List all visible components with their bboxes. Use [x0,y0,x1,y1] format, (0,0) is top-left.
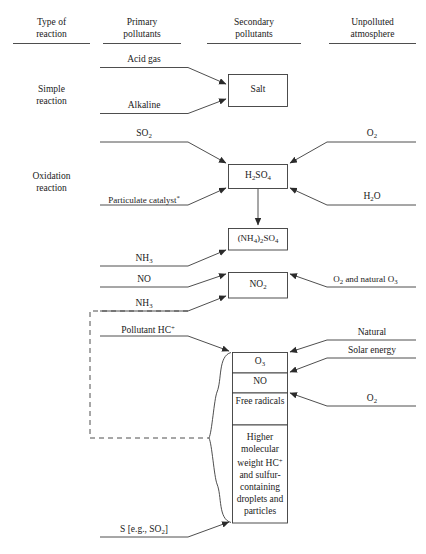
label-text: SO2 [136,128,152,138]
header-line1: Primary [103,17,181,29]
label-natural: Natural [328,327,416,339]
label-alkaline: Alkaline [100,100,188,112]
header-secondary-pollutants: Secondary pollutants [207,17,301,40]
label-o2-photochemical: O2 [328,393,416,407]
label-text: Acid gas [127,54,161,64]
label-text: Particulate catalyst* [108,195,180,205]
box-text: O3 [255,356,265,366]
box-text: H2SO4 [245,170,271,180]
header-line2: reaction [13,29,90,41]
label-sulfur-source: S [e.g., SO2] [100,524,188,538]
flow-so2 [100,142,226,163]
row-label-line2: reaction [13,96,90,108]
header-line2: atmosphere [329,29,416,41]
box-label-h2so4: H2SO4 [228,170,288,184]
box-label-no2: NO2 [228,279,288,293]
brace-recirculation [209,353,231,523]
label-text: NH3 [135,298,152,308]
header-unpolluted-atmosphere: Unpolluted atmosphere [329,17,416,40]
label-nh3-ammonium: NH3 [100,253,188,267]
row-label-simple-reaction: Simple reaction [13,84,90,107]
flow-acid-gas [100,68,226,85]
row-label-line1: Simple [13,84,90,96]
label-no: NO [100,274,188,286]
flow-o2-oxidation [290,142,416,163]
box-text: Higher molecular weight HC+ and sulfur-c… [237,432,284,516]
label-text: Solar energy [348,345,396,355]
label-text: Pollutant HC+ [121,325,175,335]
label-text: O2 [367,393,377,403]
row-label-line2: reaction [8,183,95,195]
box-label-salt: Salt [228,84,288,96]
box-text: NO [253,376,267,386]
label-o2-oxidation: O2 [328,128,416,142]
box-text: NO2 [249,279,266,289]
label-text: Natural [358,327,387,337]
box-label-higher-molecular-weight: Higher molecular weight HC+ and sulfur-c… [233,431,287,517]
label-h2o: H2O [328,191,416,205]
diagram-canvas: Type of reaction Primary pollutants Seco… [0,0,426,554]
header-line2: pollutants [103,29,181,41]
label-acid-gas: Acid gas [100,54,188,66]
header-line1: Unpolluted [329,17,416,29]
label-text: S [e.g., SO2] [120,524,168,534]
header-line1: Secondary [207,17,301,29]
box-label-o3: O3 [232,356,288,370]
box-label-free-radicals: Free radicals [233,396,287,408]
row-label-oxidation-reaction: Oxidation reaction [8,171,95,194]
label-o2-and-natural-o3: O2 and natural O3 [313,274,418,288]
label-so2: SO2 [100,128,188,142]
label-text: O2 and natural O3 [333,274,398,284]
flow-solar-energy [290,358,416,372]
box-label-ammonium-sulfate: (NH4)2SO4 [226,233,290,247]
label-text: NH3 [135,253,152,263]
label-pollutant-hc: Pollutant HC+ [100,322,196,337]
label-nh3-lower: NH3 [100,298,188,312]
header-line2: pollutants [207,29,301,41]
box-text: Salt [251,84,266,94]
box-label-no-product: NO [232,376,288,388]
label-solar-energy: Solar energy [328,345,416,357]
box-text: (NH4)2SO4 [238,233,279,243]
label-text: NO [137,274,151,284]
flow-pollutant-hc [100,336,229,351]
label-text: Alkaline [128,100,161,110]
label-particulate-catalyst: Particulate catalyst* [92,192,196,207]
header-type-of-reaction: Type of reaction [13,17,90,40]
box-text: Free radicals [236,396,285,406]
label-text: O2 [367,128,377,138]
header-line1: Type of [13,17,90,29]
row-label-line1: Oxidation [8,171,95,183]
label-text: H2O [363,191,380,201]
header-primary-pollutants: Primary pollutants [103,17,181,40]
